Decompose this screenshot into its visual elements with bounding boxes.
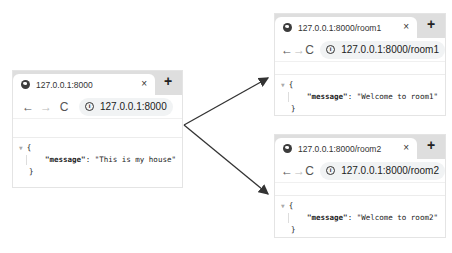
reload-button[interactable]: C (305, 43, 314, 57)
browser-toolbar: ← → C i 127.0.0.1:8000/room1 (275, 38, 445, 62)
forward-button[interactable]: → (293, 164, 305, 178)
browser-toolbar: ← → C i 127.0.0.1:8000/room2 (275, 159, 445, 183)
address-bar[interactable]: i 127.0.0.1:8000/room1 (320, 41, 445, 59)
collapse-triangle-icon[interactable]: ▼ (281, 81, 285, 88)
toolbar-spacer (13, 119, 182, 138)
forward-button[interactable]: → (37, 100, 55, 114)
json-close-brace: } (29, 167, 34, 176)
back-button[interactable]: ← (19, 100, 37, 114)
browser-tab[interactable]: 127.0.0.1:8000 × (13, 74, 155, 95)
address-bar[interactable]: i 127.0.0.1:8000 (79, 98, 173, 116)
browser-window-home: 127.0.0.1:8000 × + ← → C i 127.0.0.1:800… (12, 70, 183, 188)
url-text: 127.0.0.1:8000/room2 (341, 165, 439, 176)
close-tab-icon[interactable]: × (141, 78, 147, 89)
json-value: "This is my house" (95, 155, 176, 164)
json-close-brace: } (291, 104, 296, 113)
back-button[interactable]: ← (281, 43, 293, 57)
url-text: 127.0.0.1:8000 (100, 101, 167, 112)
tab-title: 127.0.0.1:8000 (36, 80, 93, 90)
close-tab-icon[interactable]: × (403, 21, 409, 32)
arrow-to-room1 (184, 78, 268, 125)
json-value: "Welcome to room1" (357, 92, 438, 101)
json-close-brace: } (291, 225, 296, 234)
json-separator: : (348, 92, 357, 101)
info-icon[interactable]: i (326, 45, 335, 54)
json-key: "message" (307, 213, 348, 222)
toolbar-spacer (275, 183, 445, 196)
back-button[interactable]: ← (281, 164, 293, 178)
json-viewer: ▼{ "message": "This is my house" } (13, 138, 182, 178)
json-value: "Welcome to room2" (357, 213, 438, 222)
new-tab-button[interactable]: + (427, 16, 435, 32)
tab-title: 127.0.0.1:8000/room2 (298, 144, 381, 154)
indent-guide (288, 213, 289, 223)
globe-icon (21, 80, 30, 89)
json-key: "message" (45, 155, 86, 164)
url-text: 127.0.0.1:8000/room1 (341, 44, 439, 55)
browser-window-room1: 127.0.0.1:8000/room1 × + ← → C i 127.0.0… (274, 13, 446, 116)
toolbar-spacer (275, 62, 445, 75)
tab-title: 127.0.0.1:8000/room1 (298, 23, 381, 33)
json-separator: : (86, 155, 95, 164)
browser-window-room2: 127.0.0.1:8000/room2 × + ← → C i 127.0.0… (274, 134, 446, 238)
collapse-triangle-icon[interactable]: ▼ (281, 202, 285, 209)
new-tab-button[interactable]: + (427, 137, 435, 153)
json-separator: : (348, 213, 357, 222)
indent-guide (26, 155, 27, 165)
new-tab-button[interactable]: + (164, 73, 172, 89)
globe-icon (283, 144, 292, 153)
globe-icon (283, 23, 292, 32)
close-tab-icon[interactable]: × (403, 142, 409, 153)
address-bar[interactable]: i 127.0.0.1:8000/room2 (320, 162, 445, 180)
browser-toolbar: ← → C i 127.0.0.1:8000 (13, 95, 182, 119)
json-open-brace: { (289, 80, 294, 89)
arrow-to-room2 (184, 125, 268, 194)
browser-tab[interactable]: 127.0.0.1:8000/room2 × (275, 138, 417, 159)
json-open-brace: { (289, 201, 294, 210)
reload-button[interactable]: C (55, 100, 73, 114)
json-viewer: ▼{ "message": "Welcome to room1" } (275, 75, 445, 115)
collapse-triangle-icon[interactable]: ▼ (19, 144, 23, 151)
json-viewer: ▼{ "message": "Welcome to room2" } (275, 196, 445, 236)
json-key: "message" (307, 92, 348, 101)
info-icon[interactable]: i (326, 166, 335, 175)
json-open-brace: { (27, 143, 32, 152)
tab-strip: 127.0.0.1:8000 × + (13, 71, 182, 95)
info-icon[interactable]: i (85, 102, 94, 111)
browser-tab[interactable]: 127.0.0.1:8000/room1 × (275, 17, 417, 38)
indent-guide (288, 92, 289, 102)
tab-strip: 127.0.0.1:8000/room1 × + (275, 14, 445, 38)
reload-button[interactable]: C (305, 164, 314, 178)
tab-strip: 127.0.0.1:8000/room2 × + (275, 135, 445, 159)
forward-button[interactable]: → (293, 43, 305, 57)
